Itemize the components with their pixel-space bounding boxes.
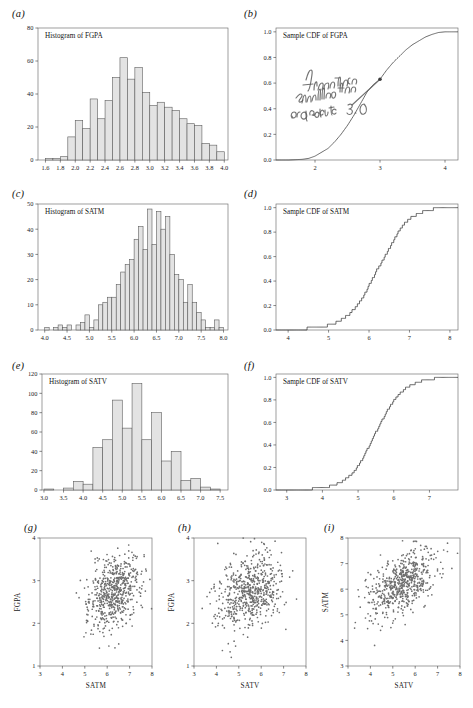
scatter-point bbox=[367, 613, 369, 615]
scatter-point bbox=[111, 602, 113, 604]
scatter-point bbox=[276, 593, 278, 595]
histogram-bar bbox=[127, 79, 134, 160]
scatter-point bbox=[262, 571, 264, 573]
scatter-point bbox=[224, 569, 226, 571]
scatter-point bbox=[401, 563, 403, 565]
scatter-point bbox=[278, 612, 280, 614]
scatter-point bbox=[258, 588, 260, 590]
histogram-bar bbox=[60, 157, 67, 160]
scatter-point bbox=[124, 571, 126, 573]
scatter-point bbox=[231, 566, 233, 568]
scatter-point bbox=[88, 594, 90, 596]
y-tick-label: 10 bbox=[27, 301, 33, 308]
scatter-point bbox=[253, 555, 255, 557]
scatter-point bbox=[260, 561, 262, 563]
scatter-point bbox=[103, 581, 105, 583]
scatter-point bbox=[404, 583, 406, 585]
scatter-point bbox=[108, 612, 110, 614]
x-tick-label: 6.0 bbox=[157, 494, 165, 501]
annotation-stroke bbox=[332, 92, 336, 98]
scatter-point bbox=[267, 551, 269, 553]
axes-e: 3.03.54.04.55.05.56.06.57.07.50204060801… bbox=[28, 370, 228, 500]
scatter-point bbox=[255, 593, 257, 595]
scatter-point bbox=[129, 575, 131, 577]
scatter-point bbox=[224, 591, 226, 593]
scatter-point bbox=[240, 564, 242, 566]
scatter-point bbox=[125, 578, 127, 580]
scatter-point bbox=[392, 590, 394, 592]
histogram-bar bbox=[210, 327, 214, 330]
scatter-point bbox=[418, 596, 420, 598]
x-tick-label: 3.5 bbox=[60, 494, 68, 501]
x-tick-label: 4.0 bbox=[41, 334, 49, 341]
scatter-point bbox=[129, 618, 131, 620]
scatter-point bbox=[230, 564, 232, 566]
scatter-point bbox=[439, 573, 441, 575]
y-tick-label: 0.2 bbox=[264, 302, 272, 309]
scatter-point bbox=[278, 570, 280, 572]
scatter-point bbox=[258, 603, 260, 605]
scatter-point bbox=[118, 627, 120, 629]
scatter-point bbox=[409, 553, 411, 555]
scatter-point bbox=[213, 586, 215, 588]
scatter-point bbox=[101, 604, 103, 606]
axes-b: 2340.00.20.40.60.81.0Sample CDF of FGPA bbox=[264, 28, 459, 171]
scatter-point bbox=[97, 581, 99, 583]
scatter-point bbox=[376, 576, 378, 578]
scatter-point bbox=[241, 591, 243, 593]
scatter-point bbox=[382, 592, 384, 594]
scatter-point bbox=[255, 613, 257, 615]
scatter-point bbox=[381, 594, 383, 596]
histogram-bar bbox=[80, 322, 84, 330]
scatter-point bbox=[123, 597, 125, 599]
scatter-point bbox=[263, 602, 265, 604]
scatter-point bbox=[397, 611, 399, 613]
scatter-point bbox=[120, 618, 122, 620]
scatter-point bbox=[103, 627, 105, 629]
annotation-stroke bbox=[343, 80, 348, 86]
scatter-point bbox=[404, 624, 406, 626]
scatter-point bbox=[246, 555, 248, 557]
scatter-point bbox=[227, 579, 229, 581]
histogram-bar bbox=[121, 272, 125, 330]
scatter-point bbox=[114, 557, 116, 559]
histogram-bar bbox=[135, 68, 142, 160]
scatter-point bbox=[258, 606, 260, 608]
scatter-point bbox=[422, 585, 424, 587]
scatter-point bbox=[264, 570, 266, 572]
panel-label-b: (b) bbox=[244, 8, 257, 19]
scatter-point bbox=[271, 599, 273, 601]
scatter-point bbox=[421, 583, 423, 585]
scatter-point bbox=[403, 575, 405, 577]
scatter-point bbox=[98, 595, 100, 597]
axes-f: 345670.00.20.40.60.81.0Sample CDF of SAT… bbox=[264, 374, 459, 501]
x-tick-label: 5.5 bbox=[108, 334, 116, 341]
scatter-point bbox=[408, 570, 410, 572]
scatter-point bbox=[236, 597, 238, 599]
scatter-point bbox=[392, 570, 394, 572]
histogram-bar bbox=[68, 137, 75, 160]
scatter-point bbox=[402, 582, 404, 584]
scatter-point bbox=[407, 586, 409, 588]
scatter-point bbox=[262, 581, 264, 583]
scatter-point bbox=[271, 570, 273, 572]
scatter-point bbox=[374, 645, 376, 647]
scatter-point bbox=[251, 596, 253, 598]
scatter-point bbox=[426, 570, 428, 572]
scatter-point bbox=[417, 582, 419, 584]
scatter-point bbox=[93, 624, 95, 626]
scatter-point bbox=[130, 589, 132, 591]
histogram-bar bbox=[188, 285, 192, 330]
scatter-point bbox=[106, 602, 108, 604]
scatter-point bbox=[234, 586, 236, 588]
scatter-point bbox=[405, 561, 407, 563]
scatter-point bbox=[421, 573, 423, 575]
scatter-point bbox=[242, 590, 244, 592]
scatter-point bbox=[433, 558, 435, 560]
scatter-point bbox=[370, 574, 372, 576]
scatter-point bbox=[88, 601, 90, 603]
scatter-point bbox=[277, 608, 279, 610]
x-tick-label: 7 bbox=[428, 494, 432, 501]
scatter-point bbox=[215, 618, 217, 620]
scatter-point bbox=[399, 594, 401, 596]
